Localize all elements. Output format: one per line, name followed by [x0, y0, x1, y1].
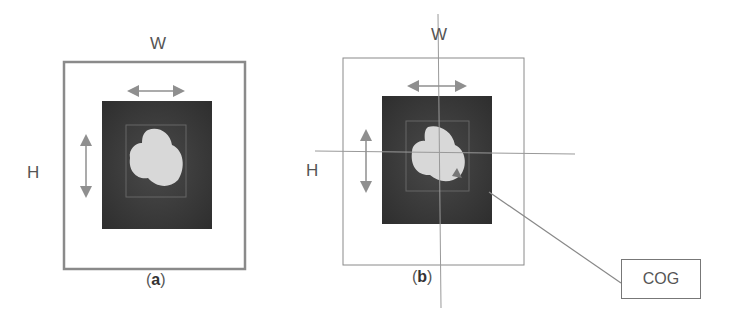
panel-b-height-label: H: [306, 161, 318, 181]
panel-a: [64, 62, 245, 269]
panel-b: [315, 14, 621, 308]
panel-b-caption: (b): [412, 268, 432, 286]
panel-a-width-label: W: [150, 34, 166, 54]
callout-leader-line: [489, 192, 621, 283]
panel-a-height-label: H: [27, 163, 39, 183]
panel-a-caption: (a): [146, 271, 166, 289]
cog-callout-box: COG: [621, 259, 701, 299]
panel-b-width-label: W: [431, 25, 447, 45]
